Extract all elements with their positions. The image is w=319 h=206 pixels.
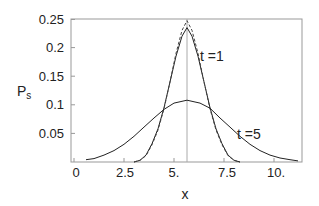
y-axis-label: Ps	[17, 83, 31, 101]
x-tick-label: 2.5	[116, 165, 134, 180]
x-tick-label: 10.	[267, 165, 285, 180]
annotation-t1: t =1	[200, 48, 224, 64]
y-tick-label: 0.25	[39, 12, 64, 27]
x-ticks	[74, 158, 274, 162]
y-tick-label: 0.05	[39, 126, 64, 141]
y-tick-label: 0.2	[46, 40, 64, 55]
x-tick-labels: 0 2.5 5. 7.5 10.	[72, 165, 285, 180]
y-tick-labels: 0.25 0.2 0.15 0.1 0.05	[39, 12, 64, 141]
x-tick-label: 5.	[169, 165, 180, 180]
x-axis-label: x	[182, 186, 189, 202]
curve-t5	[86, 100, 298, 161]
x-tick-label: 0	[72, 165, 79, 180]
annotation-t5: t =5	[237, 126, 261, 142]
y-ticks	[71, 20, 75, 134]
x-tick-label: 7.5	[218, 165, 236, 180]
y-tick-label: 0.15	[39, 69, 64, 84]
chart: 0.25 0.2 0.15 0.1 0.05 0 2.5 5. 7.5 10. …	[0, 0, 319, 206]
y-tick-label: 0.1	[46, 97, 64, 112]
